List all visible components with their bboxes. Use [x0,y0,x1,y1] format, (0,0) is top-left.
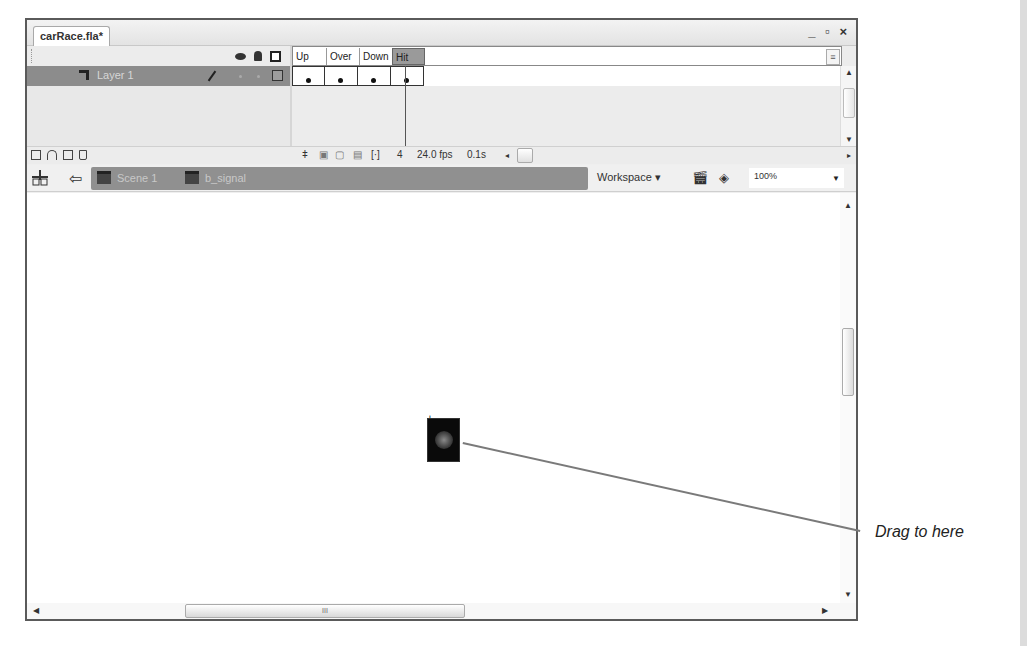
edit-bar: ⇦ Scene 1 b_signal Workspace ▾ 🎬︎ ◈ 100%… [27,165,856,192]
panel-menu-icon[interactable]: ≡ [826,49,840,65]
chevron-down-icon[interactable]: ▼ [832,174,840,183]
elapsed-time: 0.1s [467,149,486,160]
keyframe-hit[interactable] [391,66,424,86]
workspace-menu[interactable]: Workspace ▾ [597,171,661,184]
edit-multiple-frames-icon[interactable]: ▤ [353,149,362,160]
current-frame: 4 [397,149,403,160]
eye-icon[interactable] [235,53,246,60]
timeline-header: Up Over Down Hit ≡ [27,46,856,66]
layer-list-empty [27,86,290,146]
close-icon[interactable]: × [839,24,850,39]
visibility-dot[interactable] [239,75,242,78]
layer-row[interactable]: Layer 1 [27,66,290,86]
scroll-left-icon[interactable]: ◀ [33,606,39,615]
center-frame-icon[interactable]: ǂ [302,149,308,160]
edit-symbols-icon[interactable]: ◈ [719,170,735,185]
scroll-up-icon[interactable]: ▲ [844,201,852,210]
timeline-hscroll-thumb[interactable] [517,148,533,163]
stage[interactable]: + [27,193,840,603]
window-controls[interactable]: _ ▫ × [808,24,850,39]
frame-rate[interactable]: 24.0 fps [417,149,453,160]
layer-outline-toggle[interactable] [272,70,283,81]
frame-labels-header: Up Over Down Hit ≡ [292,46,842,66]
scroll-right-icon[interactable]: ▸ [847,151,851,160]
callout-text: Drag to here [875,523,964,541]
edit-symbol-icon[interactable] [32,170,48,186]
scroll-thumb[interactable] [843,88,855,118]
stage-vscroll-thumb[interactable] [842,328,854,396]
zoom-select[interactable]: 100% ▼ [749,168,844,188]
scroll-down-icon[interactable]: ▼ [844,590,852,599]
keyframe-over[interactable] [325,66,358,86]
flash-document-window: carRace.fla* _ ▫ × Up Over Down Hit ≡ La… [25,18,858,621]
add-motion-guide-icon[interactable] [47,150,57,160]
onion-skin-icon[interactable]: ▣ [319,149,328,160]
button-symbol-icon [185,171,199,184]
timeline-footer: ǂ ▣ ▢ ▤ [·] 4 24.0 fps 0.1s ◂ ▸ [27,146,856,164]
playhead[interactable] [405,66,406,146]
scroll-left-icon[interactable]: ◂ [505,151,509,160]
stage-hscroll-thumb[interactable]: III [185,604,465,618]
frame-label-down[interactable]: Down [359,48,392,65]
minimize-icon[interactable]: _ [808,24,818,39]
breadcrumb-symbol[interactable]: b_signal [205,172,246,184]
frames-empty [292,86,842,146]
frame-label-up[interactable]: Up [293,48,326,65]
page-edge-strip [1020,0,1027,646]
delete-layer-icon[interactable] [79,150,87,160]
new-folder-icon[interactable] [63,150,73,160]
keyframe-down[interactable] [358,66,391,86]
timeline-vertical-scrollbar[interactable]: ▲ ▼ [840,66,856,146]
back-arrow-icon[interactable]: ⇦ [69,169,82,188]
new-layer-icon[interactable] [31,150,41,160]
frame-label-over[interactable]: Over [326,48,359,65]
lock-dot[interactable] [257,75,260,78]
layer-icon [79,70,89,80]
restore-icon[interactable]: ▫ [825,24,833,39]
breadcrumb: Scene 1 b_signal [91,167,588,190]
modify-onion-markers-icon[interactable]: [·] [371,149,380,160]
scroll-up-icon[interactable]: ▲ [845,68,853,77]
scroll-down-icon[interactable]: ▼ [845,135,853,144]
lock-icon[interactable] [254,51,262,61]
layer-name[interactable]: Layer 1 [97,69,134,81]
document-tab[interactable]: carRace.fla* [33,26,110,47]
signal-symbol[interactable] [427,418,460,462]
onion-skin-outlines-icon[interactable]: ▢ [335,149,344,160]
edit-scene-icon[interactable]: 🎬︎ [692,170,708,185]
scene-icon [97,171,111,184]
stage-vertical-scrollbar[interactable]: ▲ ▼ [840,193,856,603]
zoom-value: 100% [754,171,777,181]
document-tab-bar: carRace.fla* _ ▫ × [27,20,856,46]
stage-horizontal-scrollbar[interactable]: ◀ III ▶ [27,603,856,619]
scroll-right-icon[interactable]: ▶ [822,606,828,615]
keyframe-up[interactable] [292,66,325,86]
signal-light [435,431,453,449]
outline-icon[interactable] [270,51,281,62]
frame-label-hit[interactable]: Hit [392,48,425,65]
panel-grip[interactable] [31,49,34,63]
breadcrumb-scene[interactable]: Scene 1 [117,172,157,184]
pencil-icon [208,71,217,82]
layer-frames [292,66,842,86]
